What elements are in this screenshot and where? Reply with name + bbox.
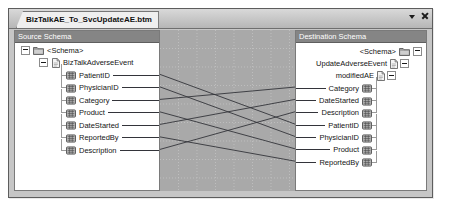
tree-node-datestarted[interactable]: DateStarted <box>296 94 426 106</box>
mapping-links-canvas <box>160 30 295 190</box>
field-icon <box>362 153 372 171</box>
link-stub <box>296 100 316 101</box>
expander-minus-icon[interactable] <box>387 71 396 80</box>
tab-strip-controls <box>409 12 428 21</box>
close-icon[interactable] <box>421 12 428 21</box>
mapper-content: Source Schema <Schema> <box>14 30 427 191</box>
link-stub <box>122 125 159 126</box>
expander-minus-icon[interactable] <box>400 59 409 68</box>
link-stub <box>296 149 330 150</box>
tree-node-physicianid[interactable]: PhysicianID <box>15 82 159 95</box>
tree-node-label: ReportedBy <box>79 133 119 142</box>
link-stub <box>122 87 159 88</box>
destination-schema-panel: Destination Schema <Schema> <box>295 30 427 191</box>
tree-node-description[interactable]: Description <box>296 107 426 119</box>
tree-connector <box>58 71 66 80</box>
tree-node-patientid[interactable]: PatientID <box>296 119 426 131</box>
expander-minus-icon[interactable] <box>21 46 30 55</box>
tree-node-label: PhysicianID <box>319 133 359 142</box>
tree-node-label: Category <box>329 84 359 93</box>
tree-node-product[interactable]: Product <box>15 107 159 120</box>
tree-node-schema[interactable]: <Schema> <box>15 44 159 57</box>
folder-icon <box>33 41 44 59</box>
tree-node-physicianid[interactable]: PhysicianID <box>296 131 426 143</box>
source-schema-tree[interactable]: <Schema> BizTalkAdv <box>15 43 159 157</box>
tree-connector <box>58 83 66 92</box>
document-icon <box>52 54 60 72</box>
tree-node-label: DateStarted <box>319 96 359 105</box>
link-stub <box>112 100 159 101</box>
tree-node-datestarted[interactable]: DateStarted <box>15 119 159 132</box>
tree-node-reportedby[interactable]: ReportedBy <box>15 132 159 145</box>
link-stub <box>108 112 159 113</box>
tree-connector <box>58 96 66 105</box>
tree-node-category[interactable]: Category <box>15 94 159 107</box>
tree-node-product[interactable]: Product <box>296 144 426 156</box>
tree-connector <box>58 108 66 117</box>
chevron-down-icon[interactable] <box>409 13 415 21</box>
tree-node-patientid[interactable]: PatientID <box>15 69 159 82</box>
tree-connector <box>58 146 66 155</box>
tab-biztalk-map[interactable]: BizTalkAE_To_SvcUpdateAE.btm <box>16 11 159 28</box>
link-stub <box>296 112 318 113</box>
tree-node-label: DateStarted <box>79 121 119 130</box>
link-stub <box>113 75 159 76</box>
link-stub <box>120 150 159 151</box>
link-stub <box>296 162 316 163</box>
document-icon <box>377 67 385 85</box>
document-icon <box>390 55 398 73</box>
field-icon <box>66 141 76 159</box>
link-stub <box>296 88 326 89</box>
tree-node-modifiedae[interactable]: modifiedAE <box>296 70 426 82</box>
tree-node-label: Product <box>79 108 105 117</box>
link-stub <box>296 125 325 126</box>
tree-connector <box>58 121 66 130</box>
tree-node-label: ReportedBy <box>319 158 359 167</box>
screenshot-canvas: BizTalkAE_To_SvcUpdateAE.btm Source Sche… <box>0 0 449 212</box>
tree-node-label: PatientID <box>79 71 110 80</box>
link-stub <box>296 137 316 138</box>
tree-node-label: Category <box>79 96 109 105</box>
tree-node-label: PatientID <box>328 121 359 130</box>
tree-node-label: Product <box>333 145 359 154</box>
expander-minus-icon[interactable] <box>413 47 422 56</box>
expander-minus-icon[interactable] <box>39 58 48 67</box>
tree-node-schema[interactable]: <Schema> <box>296 45 426 57</box>
folder-icon <box>399 42 410 60</box>
tree-connector <box>58 133 66 142</box>
link-stub <box>122 137 159 138</box>
tab-strip: BizTalkAE_To_SvcUpdateAE.btm <box>9 9 432 29</box>
source-schema-panel: Source Schema <Schema> <box>14 30 160 191</box>
tree-node-label: Description <box>79 146 117 155</box>
tree-node-description[interactable]: Description <box>15 144 159 157</box>
mapping-grid[interactable] <box>160 30 295 191</box>
tree-node-reportedby[interactable]: ReportedBy <box>296 156 426 168</box>
tree-node-label: PhysicianID <box>79 83 119 92</box>
tab-label: BizTalkAE_To_SvcUpdateAE.btm <box>26 15 152 24</box>
tree-node-label: Description <box>321 108 359 117</box>
tree-node-updateadverseevent[interactable]: UpdateAdverseEvent <box>296 57 426 69</box>
document-window: BizTalkAE_To_SvcUpdateAE.btm Source Sche… <box>8 8 433 198</box>
destination-schema-tree[interactable]: <Schema> UpdateAdve <box>296 43 426 168</box>
tree-node-category[interactable]: Category <box>296 82 426 94</box>
tree-connector <box>372 158 380 167</box>
